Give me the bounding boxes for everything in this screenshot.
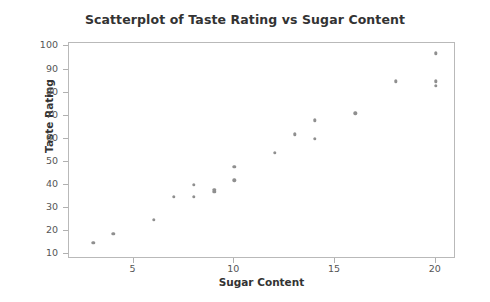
y-tick-label: 20 <box>28 225 58 235</box>
data-point <box>434 84 437 87</box>
data-point <box>192 183 195 186</box>
data-point <box>354 112 357 115</box>
x-tick-mark <box>233 258 234 263</box>
x-tick-label: 20 <box>420 264 450 274</box>
scatterplot-figure: Scatterplot of Taste Rating vs Sugar Con… <box>0 0 490 302</box>
y-tick-label: 10 <box>28 248 58 258</box>
y-tick-label: 60 <box>28 133 58 143</box>
data-point <box>112 232 115 235</box>
data-point <box>233 165 236 168</box>
y-tick-label: 30 <box>28 202 58 212</box>
data-point <box>434 52 437 55</box>
plot-area <box>68 42 455 258</box>
data-point <box>91 241 94 244</box>
y-tick-label: 100 <box>28 40 58 50</box>
x-tick-mark <box>133 258 134 263</box>
y-tick-label: 40 <box>28 179 58 189</box>
x-tick-label: 5 <box>118 264 148 274</box>
data-point <box>233 179 236 182</box>
data-point <box>192 195 195 198</box>
x-tick-label: 10 <box>218 264 248 274</box>
x-tick-label: 15 <box>319 264 349 274</box>
x-tick-mark <box>334 258 335 263</box>
data-point <box>313 137 316 140</box>
y-tick-label: 90 <box>28 64 58 74</box>
data-point <box>434 79 437 82</box>
data-point <box>172 195 175 198</box>
x-axis-title: Sugar Content <box>68 276 455 288</box>
data-point <box>293 133 296 136</box>
chart-title: Scatterplot of Taste Rating vs Sugar Con… <box>0 12 490 27</box>
y-tick-label: 70 <box>28 110 58 120</box>
y-tick-label: 50 <box>28 156 58 166</box>
data-point <box>273 151 276 154</box>
y-tick-label: 80 <box>28 87 58 97</box>
data-point <box>313 119 316 122</box>
data-point <box>394 79 397 82</box>
x-tick-mark <box>435 258 436 263</box>
data-point <box>152 218 155 221</box>
